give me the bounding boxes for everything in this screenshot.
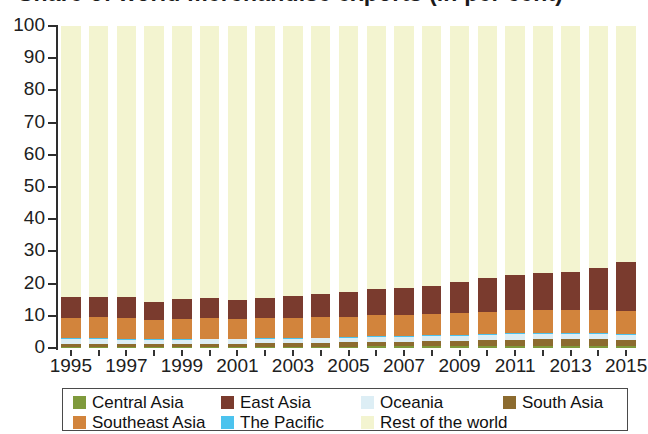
legend-label: Oceania <box>380 394 443 411</box>
bar-segment <box>61 347 80 348</box>
bar-segment <box>89 317 108 338</box>
bar-segment <box>505 310 524 333</box>
y-axis-tick <box>48 186 57 188</box>
bar-2012[interactable] <box>533 26 552 348</box>
bar-2004[interactable] <box>311 26 330 348</box>
bar-segment <box>561 339 580 346</box>
bar-segment <box>283 26 302 296</box>
x-axis: 1995199719992001200320052007200920112013… <box>0 350 648 380</box>
bar-segment <box>533 346 552 348</box>
bar-2008[interactable] <box>422 26 441 348</box>
bar-segment <box>228 319 247 339</box>
bar-segment <box>144 26 163 302</box>
bar-segment <box>422 346 441 348</box>
bar-segment <box>89 347 108 348</box>
bar-segment <box>144 302 163 320</box>
bar-segment <box>478 278 497 312</box>
y-axis-tick <box>48 315 57 317</box>
bar-1995[interactable] <box>61 26 80 348</box>
bar-2001[interactable] <box>228 26 247 348</box>
bar-segment <box>422 314 441 335</box>
chart-title: Share of world merchandise exports (in p… <box>18 0 563 7</box>
bar-2003[interactable] <box>283 26 302 348</box>
bar-segment <box>616 346 635 348</box>
bar-1998[interactable] <box>144 26 163 348</box>
bar-segment <box>367 289 386 315</box>
bar-2010[interactable] <box>478 26 497 348</box>
bar-segment <box>589 346 608 348</box>
x-axis-tick <box>597 350 599 356</box>
chart-legend: Central AsiaEast AsiaOceaniaSouth AsiaSo… <box>62 388 628 431</box>
bar-segment <box>589 268 608 311</box>
bar-segment <box>505 275 524 310</box>
bar-segment <box>561 272 580 310</box>
y-axis-tick <box>48 57 57 59</box>
bar-segment <box>367 346 386 348</box>
bar-1997[interactable] <box>117 26 136 348</box>
bar-segment <box>533 26 552 273</box>
bar-segment <box>561 346 580 348</box>
y-axis-tick-label: 30 <box>0 239 45 261</box>
x-axis-tick-label: 2003 <box>272 355 314 377</box>
bar-segment <box>255 298 274 319</box>
legend-item-oceania[interactable]: Oceania <box>361 394 443 411</box>
y-axis-tick-label: 80 <box>0 78 45 100</box>
legend-item-central_asia[interactable]: Central Asia <box>73 394 184 411</box>
bar-1999[interactable] <box>172 26 191 348</box>
bar-2014[interactable] <box>589 26 608 348</box>
bar-segment <box>339 26 358 292</box>
x-axis-tick <box>431 350 433 356</box>
bar-2011[interactable] <box>505 26 524 348</box>
bar-segment <box>561 26 580 272</box>
x-axis-tick <box>375 350 377 356</box>
x-axis-tick-label: 2009 <box>438 355 480 377</box>
bar-segment <box>367 26 386 289</box>
bar-1996[interactable] <box>89 26 108 348</box>
legend-swatch-icon <box>73 396 86 409</box>
bar-segment <box>589 339 608 346</box>
legend-swatch-icon <box>503 396 516 409</box>
chart-page: Share of world merchandise exports (in p… <box>0 0 648 434</box>
legend-item-the_pacific[interactable]: The Pacific <box>221 414 324 431</box>
bar-segment <box>311 317 330 337</box>
bar-2007[interactable] <box>394 26 413 348</box>
legend-label: East Asia <box>240 394 311 411</box>
legend-label: Rest of the world <box>380 414 508 431</box>
bar-2000[interactable] <box>200 26 219 348</box>
bar-segment <box>283 318 302 338</box>
bar-segment <box>172 319 191 339</box>
bar-segment <box>61 318 80 339</box>
bar-2009[interactable] <box>450 26 469 348</box>
x-axis-tick-label: 1999 <box>161 355 203 377</box>
bar-segment <box>144 347 163 348</box>
legend-label: The Pacific <box>240 414 324 431</box>
bar-segment <box>255 26 274 298</box>
x-axis-tick-label: 1997 <box>105 355 147 377</box>
bar-segment <box>228 347 247 348</box>
legend-item-south_asia[interactable]: South Asia <box>503 394 603 411</box>
legend-item-east_asia[interactable]: East Asia <box>221 394 311 411</box>
y-axis-tick <box>48 250 57 252</box>
legend-item-rest_of_world[interactable]: Rest of the world <box>361 414 508 431</box>
bar-segment <box>255 347 274 348</box>
bar-2005[interactable] <box>339 26 358 348</box>
bar-2013[interactable] <box>561 26 580 348</box>
bar-segment <box>89 297 108 318</box>
bar-segment <box>478 346 497 348</box>
bar-segment <box>394 315 413 336</box>
bar-segment <box>172 26 191 300</box>
bar-segment <box>61 297 80 318</box>
legend-item-southeast_asia[interactable]: Southeast Asia <box>73 414 205 431</box>
y-axis-tick-label: 100 <box>0 14 45 36</box>
y-axis-tick-label: 70 <box>0 111 45 133</box>
bar-segment <box>89 26 108 297</box>
bar-segment <box>616 311 635 334</box>
bar-2006[interactable] <box>367 26 386 348</box>
bar-2002[interactable] <box>255 26 274 348</box>
bar-2015[interactable] <box>616 26 635 348</box>
bar-segment <box>450 26 469 282</box>
bar-segment <box>394 288 413 315</box>
bar-segment <box>533 310 552 333</box>
y-axis-tick-label: 10 <box>0 304 45 326</box>
x-axis-tick-label: 2011 <box>495 355 536 377</box>
